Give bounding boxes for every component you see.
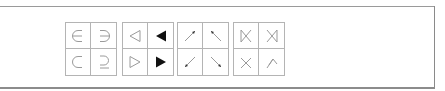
contains-as-member-icon [96,28,112,44]
frame-right-border [434,6,435,88]
element-of-icon [70,28,86,44]
palette-set-relations [65,22,117,76]
frame-top-border [0,6,435,7]
symbol-button-right-semijoin[interactable] [259,23,284,49]
symbol-button-superset-or-equal[interactable] [91,49,116,75]
symbol-button-element-of[interactable] [66,23,91,49]
white-left-triangle-icon [127,28,143,44]
white-right-triangle-icon [127,54,143,70]
symbol-button-south-west-arrow[interactable] [178,49,203,75]
black-right-triangle-icon [153,54,169,70]
palette-triangles [122,22,174,76]
symbol-button-north-east-arrow[interactable] [178,23,203,49]
black-left-triangle-icon [153,28,169,44]
subset-of-icon [70,54,86,70]
south-east-arrow-icon [208,54,224,70]
palette-bowtie-joins [233,22,285,76]
frame-bottom-border [0,87,435,89]
cross-lower-icon [238,54,254,70]
wedge-cross-icon [264,54,280,70]
symbol-button-subset-of[interactable] [66,49,91,75]
symbol-button-north-west-arrow[interactable] [203,23,228,49]
palette-diagonal-arrows [177,22,229,76]
symbol-button-black-right-triangle[interactable] [148,49,173,75]
south-west-arrow-icon [182,54,198,70]
symbol-button-cross[interactable] [234,49,259,75]
superset-of-or-equal-icon [96,54,112,70]
symbol-button-white-right-triangle[interactable] [123,49,148,75]
symbol-button-contains[interactable] [91,23,116,49]
left-semijoin-icon [238,28,254,44]
right-semijoin-icon [264,28,280,44]
symbol-button-left-semijoin[interactable] [234,23,259,49]
symbol-button-wedge-cross[interactable] [259,49,284,75]
symbol-button-white-left-triangle[interactable] [123,23,148,49]
north-east-arrow-icon [182,28,198,44]
north-west-arrow-icon [208,28,224,44]
symbol-button-south-east-arrow[interactable] [203,49,228,75]
symbol-button-black-left-triangle[interactable] [148,23,173,49]
